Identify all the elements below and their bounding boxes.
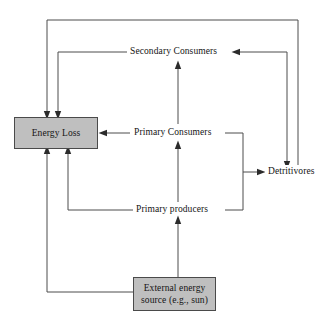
node-label-detritivores: Detritivores [265, 165, 318, 177]
external-energy-source-box [134, 278, 216, 311]
node-label-primary-consumers: Primary Consumers [131, 126, 214, 138]
energy-flow-diagram: Energy Loss Secondary Consumers Primary … [0, 0, 333, 318]
node-label-primary-producers: Primary producers [133, 203, 211, 215]
node-label-secondary-consumers: Secondary Consumers [127, 45, 220, 57]
energy-loss-box [15, 118, 98, 149]
